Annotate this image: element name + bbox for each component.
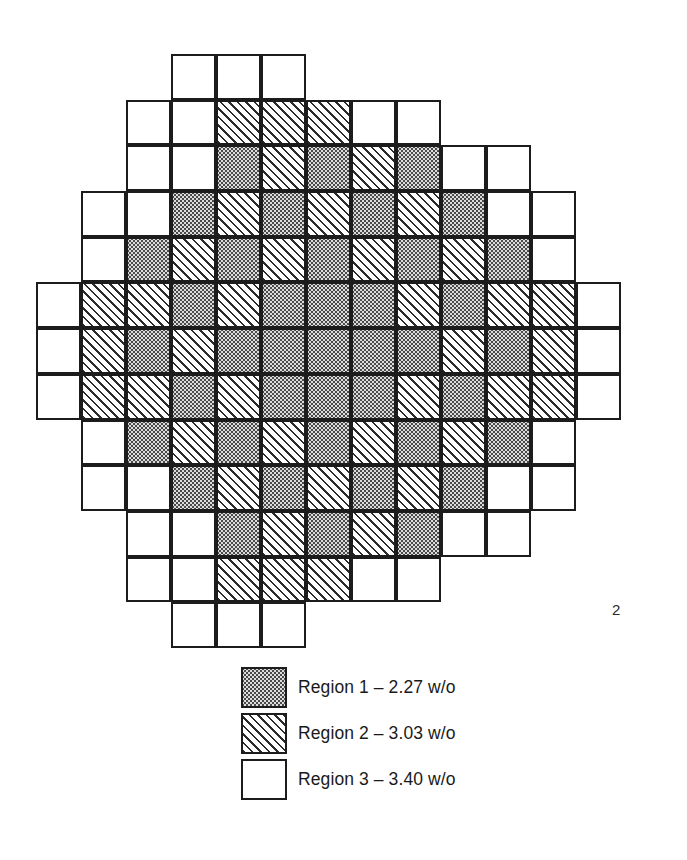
- core-cell-r11-c6: [306, 557, 351, 603]
- legend-item: Region 3 – 3.40 w/o: [241, 758, 571, 801]
- core-cell-r3-c7: [351, 191, 396, 237]
- core-cell-r7-c4: [216, 374, 261, 420]
- core-cell-r5-c2: [126, 282, 171, 328]
- core-cell-r3-c10: [486, 191, 531, 237]
- core-cell-r6-c4: [216, 328, 261, 374]
- core-cell-r4-c4: [216, 237, 261, 283]
- core-cell-r3-c5: [261, 191, 306, 237]
- core-cell-r1-c2: [126, 100, 171, 146]
- core-cell-r6-c2: [126, 328, 171, 374]
- core-cell-r2-c3: [171, 145, 216, 191]
- core-cell-r4-c9: [441, 237, 486, 283]
- core-cell-r5-c7: [351, 282, 396, 328]
- core-cell-r8-c5: [261, 420, 306, 466]
- core-cell-r11-c4: [216, 557, 261, 603]
- legend-label-region-1: Region 1 – 2.27 w/o: [298, 677, 456, 698]
- legend-swatch-region-3: [241, 759, 287, 800]
- core-cell-r5-c0: [36, 282, 81, 328]
- page-number: 2: [612, 601, 620, 618]
- legend-item: Region 2 – 3.03 w/o: [241, 712, 571, 755]
- core-cell-r6-c5: [261, 328, 306, 374]
- core-cell-r6-c11: [531, 328, 576, 374]
- core-cell-r3-c9: [441, 191, 486, 237]
- core-cell-r10-c4: [216, 511, 261, 557]
- core-cell-r10-c6: [306, 511, 351, 557]
- core-cell-r2-c5: [261, 145, 306, 191]
- core-cell-r0-c5: [261, 54, 306, 100]
- core-cell-r2-c9: [441, 145, 486, 191]
- core-cell-r7-c2: [126, 374, 171, 420]
- core-cell-r10-c10: [486, 511, 531, 557]
- core-cell-r3-c1: [81, 191, 126, 237]
- core-cell-r4-c7: [351, 237, 396, 283]
- core-cell-r9-c5: [261, 465, 306, 511]
- core-cell-r11-c7: [351, 557, 396, 603]
- core-cell-r9-c10: [486, 465, 531, 511]
- core-cell-r6-c10: [486, 328, 531, 374]
- core-cell-r11-c3: [171, 557, 216, 603]
- core-cell-r5-c1: [81, 282, 126, 328]
- core-cell-r8-c4: [216, 420, 261, 466]
- core-cell-r0-c4: [216, 54, 261, 100]
- core-cell-r11-c2: [126, 557, 171, 603]
- core-cell-r6-c8: [396, 328, 441, 374]
- core-cell-r7-c8: [396, 374, 441, 420]
- core-cell-r5-c3: [171, 282, 216, 328]
- core-cell-r3-c6: [306, 191, 351, 237]
- core-cell-r7-c10: [486, 374, 531, 420]
- core-cell-r6-c0: [36, 328, 81, 374]
- core-cell-r3-c4: [216, 191, 261, 237]
- core-cell-r8-c1: [81, 420, 126, 466]
- core-cell-r9-c6: [306, 465, 351, 511]
- core-cell-r6-c1: [81, 328, 126, 374]
- core-cell-r5-c9: [441, 282, 486, 328]
- core-cell-r11-c8: [396, 557, 441, 603]
- core-cell-r11-c5: [261, 557, 306, 603]
- core-cell-r10-c5: [261, 511, 306, 557]
- core-cell-r10-c3: [171, 511, 216, 557]
- core-cell-r4-c10: [486, 237, 531, 283]
- core-cell-r7-c6: [306, 374, 351, 420]
- core-cell-r2-c8: [396, 145, 441, 191]
- core-cell-r8-c6: [306, 420, 351, 466]
- core-cell-r9-c8: [396, 465, 441, 511]
- core-cell-r1-c8: [396, 100, 441, 146]
- core-cell-r5-c10: [486, 282, 531, 328]
- core-cell-r3-c2: [126, 191, 171, 237]
- core-cell-r6-c9: [441, 328, 486, 374]
- core-cell-r7-c7: [351, 374, 396, 420]
- legend-label-region-2: Region 2 – 3.03 w/o: [298, 723, 456, 744]
- core-cell-r8-c9: [441, 420, 486, 466]
- core-cell-r4-c8: [396, 237, 441, 283]
- core-cell-r8-c8: [396, 420, 441, 466]
- core-cell-r5-c8: [396, 282, 441, 328]
- core-cell-r7-c5: [261, 374, 306, 420]
- core-cell-r8-c10: [486, 420, 531, 466]
- core-cell-r9-c7: [351, 465, 396, 511]
- legend: Region 1 – 2.27 w/o Region 2 – 3.03 w/o …: [241, 666, 571, 804]
- core-cell-r1-c6: [306, 100, 351, 146]
- core-cell-r4-c6: [306, 237, 351, 283]
- legend-swatch-region-2: [241, 713, 287, 754]
- core-cell-r0-c3: [171, 54, 216, 100]
- core-cell-r5-c12: [576, 282, 621, 328]
- core-cell-r2-c6: [306, 145, 351, 191]
- legend-item: Region 1 – 2.27 w/o: [241, 666, 571, 709]
- core-cell-r7-c3: [171, 374, 216, 420]
- core-cell-r10-c9: [441, 511, 486, 557]
- core-cell-r1-c7: [351, 100, 396, 146]
- core-cell-r7-c11: [531, 374, 576, 420]
- core-cell-r3-c3: [171, 191, 216, 237]
- legend-swatch-region-1: [241, 667, 287, 708]
- core-cell-r7-c1: [81, 374, 126, 420]
- core-cell-r2-c4: [216, 145, 261, 191]
- core-cell-r4-c3: [171, 237, 216, 283]
- core-cell-r7-c9: [441, 374, 486, 420]
- core-cell-r5-c6: [306, 282, 351, 328]
- core-cell-r7-c0: [36, 374, 81, 420]
- core-cell-r9-c2: [126, 465, 171, 511]
- core-cell-r12-c5: [261, 602, 306, 648]
- core-cell-r6-c3: [171, 328, 216, 374]
- core-cell-r10-c8: [396, 511, 441, 557]
- core-cell-r9-c4: [216, 465, 261, 511]
